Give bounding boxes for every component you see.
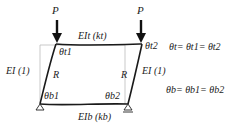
- bottom-beam-label: EIb (kb): [78, 112, 111, 122]
- top-beam-label: EIt (kt): [78, 31, 107, 41]
- frame-diagram: [0, 0, 232, 131]
- load-label-right: P: [137, 5, 144, 16]
- right-column-label: EI (1): [142, 66, 166, 76]
- roller-support-right: [123, 104, 133, 112]
- top-rotation-equation: θt= θt1= θt2: [169, 42, 221, 52]
- theta-b1-label: θb1: [44, 91, 59, 101]
- chord-rotation-right: R: [121, 70, 127, 80]
- theta-b2-label: θb2: [105, 91, 120, 101]
- chord-rotation-left: R: [53, 70, 59, 80]
- bottom-rotation-equation: θb= θb1= θb2: [166, 85, 224, 95]
- load-label-left: P: [52, 5, 59, 16]
- theta-t1-label: θt1: [59, 47, 72, 57]
- left-column-label: EI (1): [6, 66, 30, 76]
- load-arrow-left: [52, 20, 62, 43]
- theta-t2-label: θt2: [145, 41, 158, 51]
